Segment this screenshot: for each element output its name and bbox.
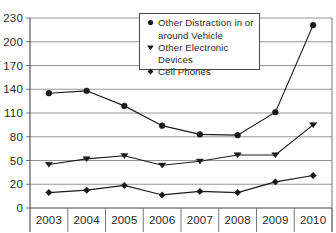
y-axis-tick-label: 20 (10, 178, 23, 190)
x-axis-tick-label: 2003 (36, 214, 62, 226)
data-point-circle (84, 88, 90, 94)
series-line-2 (49, 176, 313, 195)
legend-spacer (145, 30, 156, 42)
data-point-circle (46, 90, 52, 96)
line-chart: 0205080110140170200230200320042005200620… (0, 0, 336, 233)
y-axis-tick-label: 80 (10, 131, 23, 143)
circle-marker-icon (145, 17, 156, 29)
data-point-diamond (197, 188, 203, 194)
legend-item-other-distraction: Other Distraction in or (145, 17, 255, 29)
data-point-circle (121, 103, 127, 109)
x-axis-tick-label: 2010 (300, 214, 326, 226)
x-axis-tick-label: 2009 (262, 214, 288, 226)
y-axis-tick-label: 0 (16, 202, 23, 214)
y-axis-tick-label: 170 (3, 60, 23, 72)
data-point-diamond (83, 187, 89, 193)
legend-label-cell-phones: Cell Phones (156, 66, 211, 78)
legend-item-other-distraction-line2: around Vehicle (145, 30, 255, 42)
x-axis-tick-label: 2005 (111, 214, 137, 226)
y-axis-tick-label: 110 (4, 107, 23, 119)
y-axis-tick-label: 140 (3, 83, 23, 95)
data-point-diamond (159, 192, 165, 198)
legend-label-other-electronic-devices: Other Electronic Devices (156, 42, 255, 65)
data-point-triangle (45, 162, 52, 167)
legend-item-other-electronic-devices: Other Electronic Devices (145, 42, 255, 65)
triangle-down-marker-icon (145, 42, 156, 54)
data-point-circle (235, 132, 241, 138)
data-point-diamond (121, 182, 127, 188)
x-axis-tick-label: 2006 (149, 214, 175, 226)
y-axis-tick-label: 230 (3, 12, 23, 24)
legend-label-other-distraction: Other Distraction in or (156, 17, 254, 29)
chart-legend: Other Distraction in or around Vehicle O… (139, 13, 260, 70)
data-point-circle (272, 109, 278, 115)
data-point-diamond (46, 189, 52, 195)
data-point-circle (159, 123, 165, 129)
x-axis-tick-label: 2004 (73, 214, 100, 226)
legend-item-cell-phones: Cell Phones (145, 66, 255, 78)
x-axis-tick-label: 2007 (187, 214, 213, 226)
y-axis-tick-label: 50 (10, 155, 23, 167)
data-point-diamond (234, 189, 240, 195)
data-point-circle (197, 131, 203, 137)
diamond-marker-icon (145, 66, 156, 78)
data-point-diamond (310, 172, 316, 178)
legend-label-other-distraction-cont: around Vehicle (156, 30, 223, 42)
data-point-circle (310, 22, 316, 28)
y-axis-tick-label: 200 (3, 36, 23, 48)
x-axis-tick-label: 2008 (224, 214, 250, 226)
